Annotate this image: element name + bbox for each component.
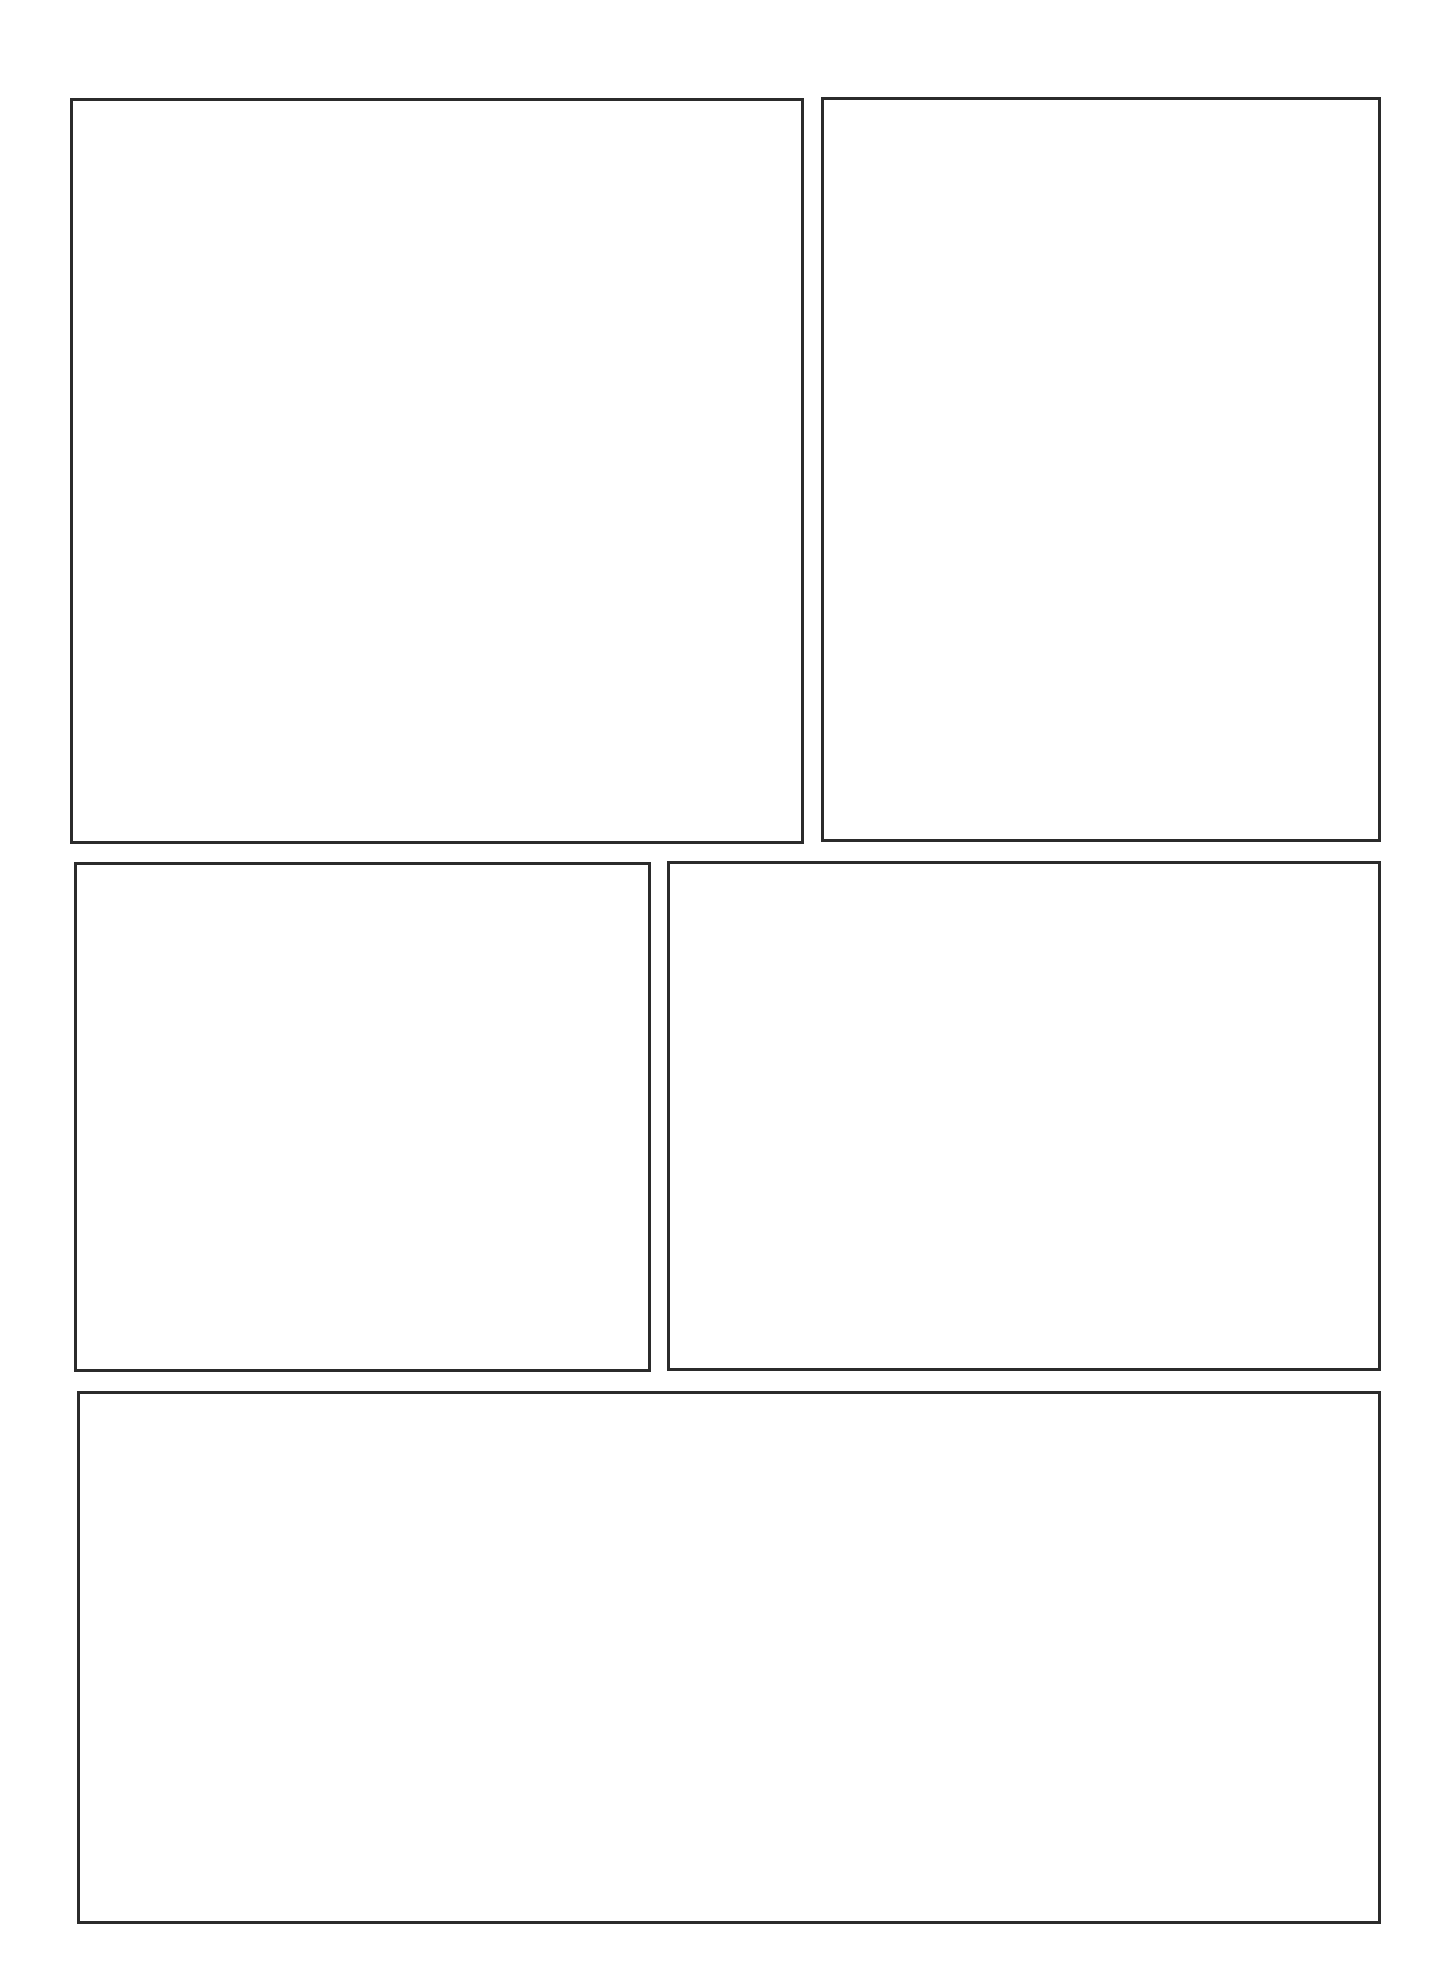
- comic-page: [0, 0, 1441, 1987]
- panel-top-right: [821, 97, 1381, 842]
- panel-bottom-wide: [77, 1391, 1381, 1924]
- panel-top-left: [70, 98, 804, 844]
- panel-middle-right: [667, 861, 1381, 1371]
- panel-middle-left: [74, 862, 651, 1372]
